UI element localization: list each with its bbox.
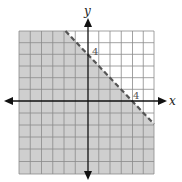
x-tick-label-4: 4 xyxy=(133,90,139,101)
y-axis-arrow-up-icon xyxy=(84,18,92,27)
x-axis-label: x xyxy=(169,94,176,108)
x-axis-arrow-left-icon xyxy=(4,97,13,105)
x-axis-arrow-right-icon xyxy=(158,97,167,105)
coordinate-plane: y x 4 4 xyxy=(0,0,182,182)
y-axis-arrow-down-icon xyxy=(84,171,92,180)
y-axis-label: y xyxy=(83,4,91,18)
y-tick-label-4: 4 xyxy=(92,46,98,57)
